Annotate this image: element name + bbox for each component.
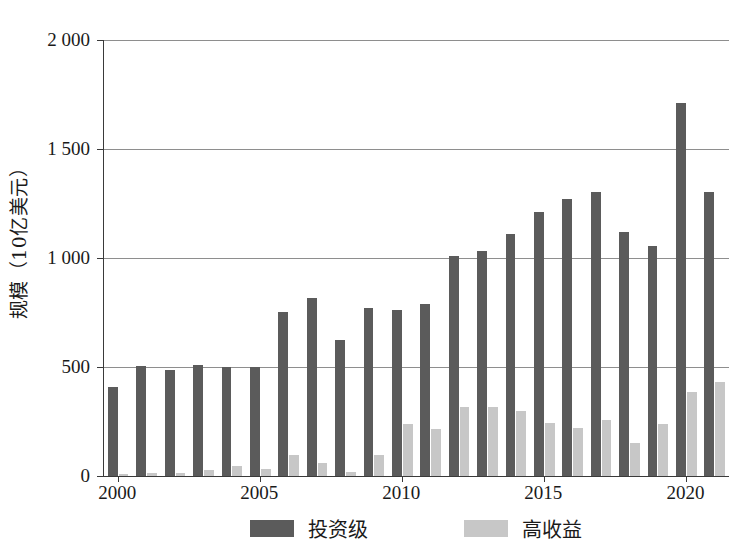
y-axis-tick-mark <box>97 476 104 477</box>
y-axis-tick-label: 1 500 <box>47 138 90 160</box>
bar-investment-grade <box>364 308 374 476</box>
legend-label-high-yield: 高收益 <box>522 514 582 543</box>
bar-investment-grade <box>591 192 601 476</box>
bar-investment-grade <box>420 304 430 476</box>
bar-high-yield <box>204 470 214 476</box>
plot-area <box>103 40 729 477</box>
y-axis-tick-mark <box>97 149 104 150</box>
bar-high-yield <box>460 407 470 476</box>
y-axis-title: 规模（10亿美元） <box>0 0 36 476</box>
y-axis-tick-mark <box>97 40 104 41</box>
x-axis-tick-label: 2005 <box>240 482 278 504</box>
y-axis-title-text: 规模（10亿美元） <box>5 157 32 319</box>
bar-investment-grade <box>136 366 146 476</box>
bar-high-yield <box>602 420 612 476</box>
bar-investment-grade <box>193 365 203 476</box>
x-axis-tick-label: 2020 <box>666 482 704 504</box>
bar-investment-grade <box>307 298 317 476</box>
x-axis-tick-label: 2010 <box>382 482 420 504</box>
y-axis-tick-label: 1 000 <box>47 247 90 269</box>
bar-investment-grade <box>392 310 402 476</box>
y-axis-tick-labels: 05001 0001 5002 000 <box>34 0 96 490</box>
gridline <box>104 40 729 41</box>
legend-item-investment-grade[interactable]: 投资级 <box>250 514 368 543</box>
chart-legend: 投资级 高收益 <box>103 506 728 550</box>
y-axis-tick-label: 500 <box>62 356 91 378</box>
bar-investment-grade <box>335 340 345 476</box>
bar-high-yield <box>119 474 129 476</box>
bar-investment-grade <box>250 367 260 476</box>
bar-investment-grade <box>648 246 658 476</box>
gridline <box>104 149 729 150</box>
bar-high-yield <box>431 429 441 476</box>
bar-high-yield <box>573 428 583 476</box>
bar-high-yield <box>516 411 526 476</box>
bar-high-yield <box>545 423 555 476</box>
bar-investment-grade <box>562 199 572 476</box>
bar-investment-grade <box>222 367 232 476</box>
gridline <box>104 258 729 259</box>
y-axis-tick-mark <box>97 258 104 259</box>
bar-investment-grade <box>676 103 686 476</box>
bar-investment-grade <box>534 212 544 476</box>
legend-label-investment-grade: 投资级 <box>308 514 368 543</box>
x-axis-tick-label: 2000 <box>98 482 136 504</box>
legend-swatch-icon-investment-grade <box>250 520 294 537</box>
bar-investment-grade <box>704 192 714 476</box>
bar-high-yield <box>232 466 242 476</box>
bar-investment-grade <box>449 256 459 476</box>
bar-high-yield <box>346 472 356 476</box>
bar-high-yield <box>403 424 413 476</box>
bar-investment-grade <box>619 232 629 476</box>
bar-high-yield <box>715 382 725 476</box>
bar-high-yield <box>261 469 271 476</box>
bar-investment-grade <box>165 370 175 476</box>
bar-investment-grade <box>477 251 487 476</box>
bar-high-yield <box>318 463 328 476</box>
y-axis-tick-label: 0 <box>81 465 91 487</box>
bar-high-yield <box>176 473 186 476</box>
y-axis-tick-label: 2 000 <box>47 29 90 51</box>
bar-investment-grade <box>278 312 288 476</box>
bond-issuance-bar-chart: 规模（10亿美元） 05001 0001 5002 000 2000200520… <box>0 0 753 555</box>
bar-investment-grade <box>108 387 118 476</box>
bar-high-yield <box>374 455 384 476</box>
bar-investment-grade <box>506 234 516 476</box>
y-axis-tick-mark <box>97 367 104 368</box>
legend-item-high-yield[interactable]: 高收益 <box>464 514 582 543</box>
bar-high-yield <box>630 443 640 476</box>
x-axis-tick-label: 2015 <box>524 482 562 504</box>
legend-swatch-icon-high-yield <box>464 520 508 537</box>
bar-high-yield <box>289 455 299 476</box>
bar-high-yield <box>687 392 697 476</box>
bar-high-yield <box>147 473 157 476</box>
bar-high-yield <box>658 424 668 476</box>
bar-high-yield <box>488 407 498 476</box>
